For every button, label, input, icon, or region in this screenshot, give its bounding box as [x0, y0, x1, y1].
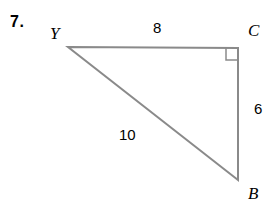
side-length-label-by: 10 [119, 127, 136, 142]
figure-container: 7. Y C B 8 6 10 [0, 0, 279, 214]
right-angle-marker-icon [226, 48, 238, 60]
triangle-outline [68, 47, 238, 180]
triangle-diagram [0, 0, 279, 214]
vertex-label-b: B [248, 185, 258, 202]
side-length-label-cb: 6 [254, 101, 262, 116]
vertex-label-y: Y [50, 25, 59, 42]
vertex-label-c: C [248, 22, 259, 39]
problem-number: 7. [10, 14, 24, 30]
side-length-label-yc: 8 [153, 20, 161, 35]
